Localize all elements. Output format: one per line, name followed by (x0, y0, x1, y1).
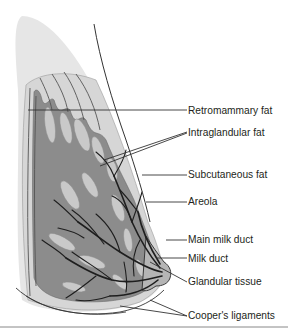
label-intraglandular-fat: Intraglandular fat (188, 127, 265, 138)
breast-anatomy-diagram: Retromammary fat Intraglandular fat Subc… (0, 0, 288, 330)
label-areola: Areola (188, 196, 218, 207)
label-main-milk-duct: Main milk duct (188, 234, 253, 245)
label-subcutaneous-fat: Subcutaneous fat (188, 169, 267, 180)
label-glandular-tissue: Glandular tissue (188, 276, 262, 287)
label-retromammary-fat: Retromammary fat (188, 105, 273, 116)
label-coopers-ligaments: Cooper's ligaments (188, 310, 275, 321)
label-milk-duct: Milk duct (188, 253, 228, 264)
